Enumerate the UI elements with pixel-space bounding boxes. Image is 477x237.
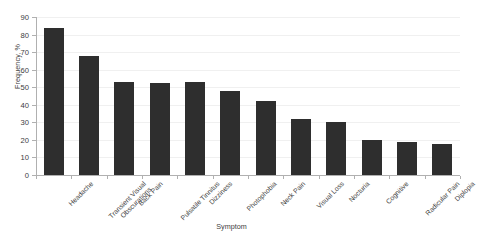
x-tick-label: Cognitive xyxy=(384,180,410,206)
bar xyxy=(79,56,99,175)
x-tick-mark xyxy=(389,176,390,179)
x-tick-mark xyxy=(36,176,37,179)
bar xyxy=(291,119,311,175)
x-axis-title: Symptom xyxy=(0,222,463,231)
y-tick-label: 90 xyxy=(0,13,29,22)
bar xyxy=(185,82,205,175)
x-tick-mark xyxy=(283,176,284,179)
y-tick-label: 70 xyxy=(0,48,29,57)
y-tick-label: 40 xyxy=(0,100,29,109)
bar xyxy=(150,83,170,175)
x-tick-label: Neck Pain xyxy=(279,180,307,208)
x-tick-mark xyxy=(319,176,320,179)
x-tick-mark xyxy=(425,176,426,179)
bar xyxy=(220,91,240,175)
y-tick-label: 50 xyxy=(0,83,29,92)
bars-layer xyxy=(36,17,460,175)
bar xyxy=(362,140,382,175)
y-tick-label: 20 xyxy=(0,135,29,144)
x-tick-label: Nocturia xyxy=(348,180,372,204)
bar xyxy=(397,142,417,175)
x-tick-label: Headache xyxy=(67,180,95,208)
x-tick-mark xyxy=(354,176,355,179)
x-tick-mark xyxy=(460,176,461,179)
x-tick-mark xyxy=(177,176,178,179)
bar xyxy=(432,144,452,175)
y-tick-label: 30 xyxy=(0,118,29,127)
y-tick-label: 80 xyxy=(0,30,29,39)
x-tick-mark xyxy=(142,176,143,179)
y-tick-label: 0 xyxy=(0,171,29,180)
x-tick-label: Visual Loss xyxy=(315,180,345,210)
y-tick-label: 60 xyxy=(0,65,29,74)
bar xyxy=(44,28,64,175)
bar xyxy=(256,101,276,175)
x-tick-mark xyxy=(71,176,72,179)
bar xyxy=(326,122,346,175)
x-tick-mark xyxy=(107,176,108,179)
y-tick-label: 10 xyxy=(0,153,29,162)
x-tick-mark xyxy=(248,176,249,179)
bar xyxy=(114,82,134,175)
x-tick-mark xyxy=(213,176,214,179)
x-tick-label: Photophobia xyxy=(246,180,279,213)
